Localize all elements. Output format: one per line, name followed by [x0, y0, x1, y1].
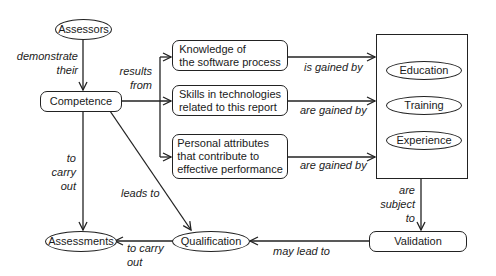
edge-label-may-lead-to: may lead to — [273, 244, 330, 258]
assessments-label: Assessments — [48, 235, 113, 248]
validation-label: Validation — [394, 235, 442, 248]
competence-node: Competence — [40, 91, 122, 112]
validation-node: Validation — [369, 231, 467, 252]
training-label: Training — [404, 99, 443, 112]
edge-label-are-gained-by-1: are gained by — [300, 103, 367, 117]
assessments-node: Assessments — [45, 231, 117, 252]
edge-label-are-subject-to: are subject to — [376, 183, 415, 225]
education-node: Education — [386, 61, 462, 80]
edge-label-to-carry-out-1: to carry out — [40, 151, 76, 193]
qualification-node: Qualification — [172, 231, 250, 252]
edge-label-is-gained-by: is gained by — [304, 60, 363, 74]
edge-label-demonstrate-their: demonstrate their — [14, 49, 78, 77]
experience-label: Experience — [396, 134, 451, 147]
assessors-label: Assessors — [58, 23, 109, 36]
edge-label-to-carry-out-2: to carry out — [127, 241, 164, 269]
knowledge-label: Knowledge of the software process — [179, 43, 281, 69]
edge-label-are-gained-by-2: are gained by — [300, 158, 367, 172]
competence-label: Competence — [50, 95, 112, 108]
skills-label: Skills in technologies related to this r… — [179, 88, 281, 114]
knowledge-node: Knowledge of the software process — [172, 40, 288, 71]
personal-attributes-node: Personal attributes that contribute to e… — [172, 134, 288, 179]
experience-node: Experience — [386, 131, 462, 150]
qualification-label: Qualification — [181, 235, 242, 248]
assessors-node: Assessors — [55, 19, 112, 40]
skills-node: Skills in technologies related to this r… — [172, 85, 288, 116]
education-label: Education — [400, 64, 449, 77]
personal-attributes-label: Personal attributes that contribute to e… — [177, 137, 283, 176]
training-node: Training — [386, 96, 462, 115]
edge-label-results-from: results from — [112, 64, 152, 92]
edge-label-leads-to: leads to — [121, 186, 160, 200]
